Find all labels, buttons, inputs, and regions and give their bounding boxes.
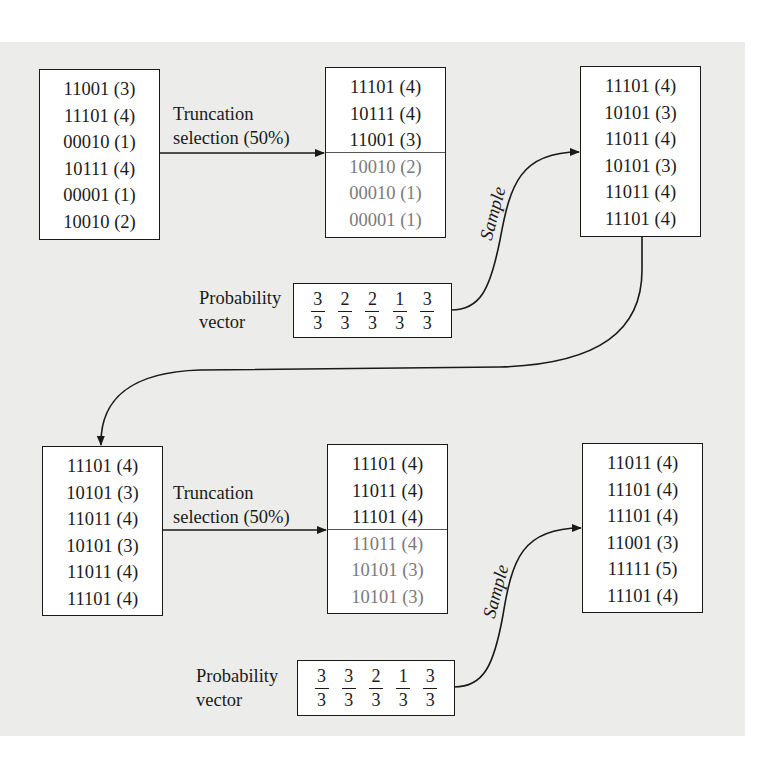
probability-fraction: 23 xyxy=(369,666,383,710)
bitstring: 11101 xyxy=(64,106,109,126)
fraction-bar xyxy=(393,311,407,312)
probability-fraction: 33 xyxy=(315,666,329,710)
denominator: 3 xyxy=(368,313,377,333)
bitstring: 11011 xyxy=(352,481,397,501)
individual-row: 00001 (1) xyxy=(40,182,159,209)
discarded-individual-row: 00010 (1) xyxy=(326,180,445,207)
fitness-value: (4) xyxy=(401,481,423,501)
bitstring: 11101 xyxy=(352,507,397,527)
gen2-probability-vector-label: Probability vector xyxy=(196,664,278,712)
denominator: 3 xyxy=(426,690,435,710)
fitness-value: (3) xyxy=(402,560,424,580)
numerator: 3 xyxy=(317,666,326,686)
bitstring: 10101 xyxy=(604,103,650,123)
fitness-value: (3) xyxy=(400,130,422,150)
bitstring: 11101 xyxy=(605,76,650,96)
fraction-bar xyxy=(369,688,383,689)
bitstring: 11101 xyxy=(607,586,652,606)
population-list: 11101 (4) 10101 (3) 11011 (4) 10101 (3) … xyxy=(581,73,700,232)
bitstring: 10111 xyxy=(64,159,109,179)
numerator: 1 xyxy=(395,289,404,309)
individual-row: 00010 (1) xyxy=(40,129,159,156)
individual-row: 11011 (4) xyxy=(43,506,162,533)
numerator: 3 xyxy=(426,666,435,686)
individual-row: 11101 (4) xyxy=(583,503,702,530)
prob-label-line1: Probability xyxy=(196,664,278,688)
truncation-divider xyxy=(328,529,447,530)
fitness-value: (4) xyxy=(654,129,676,149)
individual-row: 11011 (4) xyxy=(583,450,702,477)
fitness-value: (3) xyxy=(114,79,136,99)
fitness-value: (3) xyxy=(117,483,139,503)
fitness-value: (4) xyxy=(401,507,423,527)
gen1-selected-population: 11101 (4) 10111 (4) 11001 (3) 10010 (2) … xyxy=(325,67,446,238)
bitstring: 11101 xyxy=(607,506,652,526)
individual-row: 11001 (3) xyxy=(583,530,702,557)
denominator: 3 xyxy=(344,690,353,710)
denominator: 3 xyxy=(395,313,404,333)
kept-individual-row: 11101 (4) xyxy=(328,504,447,531)
denominator: 3 xyxy=(341,313,350,333)
fitness-value: (1) xyxy=(114,132,136,152)
fraction-bar xyxy=(420,311,434,312)
selection-label-line2: selection (50%) xyxy=(173,505,290,529)
individual-row: 11101 (4) xyxy=(583,477,702,504)
fitness-value: (4) xyxy=(401,454,423,474)
fitness-value: (4) xyxy=(116,562,138,582)
bitstring: 10111 xyxy=(350,104,395,124)
bitstring: 11011 xyxy=(67,509,112,529)
fitness-value: (4) xyxy=(116,456,138,476)
fraction-bar xyxy=(396,688,410,689)
denominator: 3 xyxy=(371,690,380,710)
fitness-value: (4) xyxy=(656,506,678,526)
bitstring: 00010 xyxy=(349,183,395,203)
kept-individual-row: 11101 (4) xyxy=(326,74,445,101)
bitstring: 11101 xyxy=(605,209,650,229)
bitstring: 11101 xyxy=(352,454,397,474)
probability-fraction: 13 xyxy=(393,289,407,333)
denominator: 3 xyxy=(313,313,322,333)
discarded-individual-row: 00001 (1) xyxy=(326,207,445,234)
denominator: 3 xyxy=(317,690,326,710)
gen1-initial-population: 11001 (3) 11101 (4) 00010 (1) 10111 (4) … xyxy=(39,69,160,240)
gen1-probability-vector-label: Probability vector xyxy=(199,286,281,334)
bitstring: 11001 xyxy=(350,130,396,150)
truncation-divider xyxy=(326,152,445,153)
probability-fraction: 23 xyxy=(365,289,379,333)
discarded-individual-row: 11011 (4) xyxy=(328,531,447,558)
individual-row: 11011 (4) xyxy=(581,179,700,206)
bitstring: 10101 xyxy=(351,587,397,607)
kept-individual-row: 10111 (4) xyxy=(326,101,445,128)
numerator: 3 xyxy=(313,289,322,309)
bitstring: 00001 xyxy=(349,210,395,230)
fitness-value: (4) xyxy=(656,480,678,500)
fraction-bar xyxy=(315,688,329,689)
fitness-value: (3) xyxy=(117,536,139,556)
fitness-value: (3) xyxy=(402,587,424,607)
bitstring: 10101 xyxy=(66,483,112,503)
probability-fraction: 33 xyxy=(342,666,356,710)
gen1-selection-label: Truncation selection (50%) xyxy=(173,102,290,150)
individual-row: 10101 (3) xyxy=(43,480,162,507)
bitstring: 00001 xyxy=(63,185,109,205)
bitstring: 00010 xyxy=(63,132,109,152)
selection-label-line2: selection (50%) xyxy=(173,126,290,150)
probability-fraction: 13 xyxy=(396,666,410,710)
fitness-value: (4) xyxy=(654,76,676,96)
bitstring: 11111 xyxy=(608,559,652,579)
fitness-value: (2) xyxy=(400,157,422,177)
prob-label-line2: vector xyxy=(196,688,278,712)
fraction-bar xyxy=(365,311,379,312)
probability-fraction: 23 xyxy=(338,289,352,333)
individual-row: 11101 (4) xyxy=(581,206,700,233)
selection-label-line1: Truncation xyxy=(173,102,290,126)
selection-label-line1: Truncation xyxy=(173,481,290,505)
bitstring: 11001 xyxy=(64,79,110,99)
bitstring: 11011 xyxy=(605,182,650,202)
individual-row: 10111 (4) xyxy=(40,156,159,183)
fitness-value: (4) xyxy=(656,453,678,473)
individual-row: 11011 (4) xyxy=(581,126,700,153)
discarded-individual-row: 10101 (3) xyxy=(328,557,447,584)
probability-fraction: 33 xyxy=(420,289,434,333)
numerator: 3 xyxy=(344,666,353,686)
